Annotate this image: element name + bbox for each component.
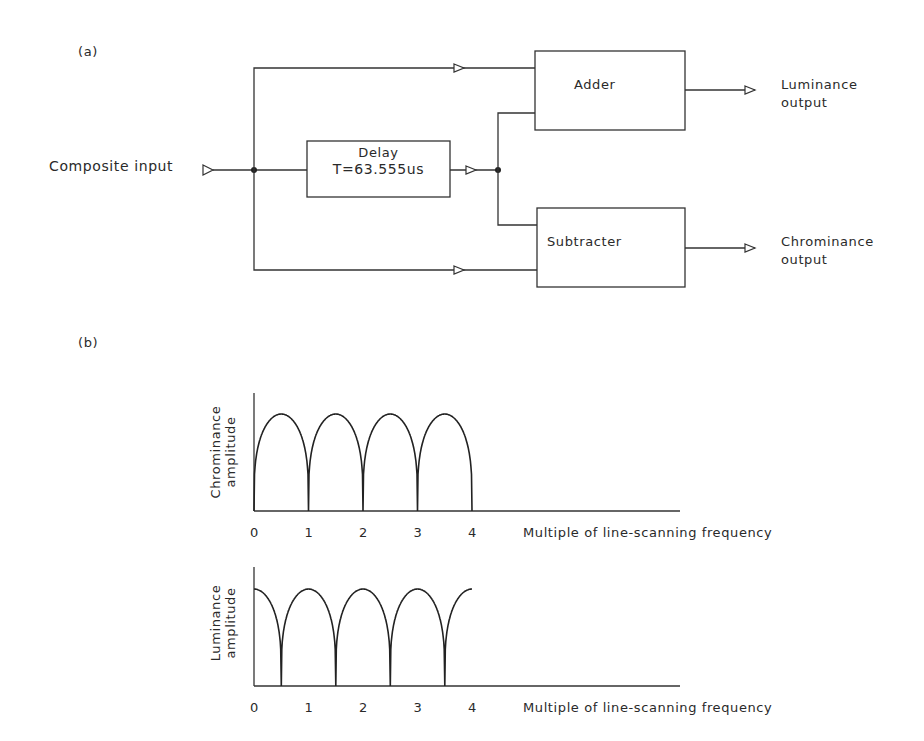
- luminance-chart: [254, 567, 680, 686]
- x-tick-label: 3: [414, 525, 423, 541]
- chrominance-curve: [254, 414, 472, 511]
- x-tick-label: 2: [359, 700, 368, 716]
- x-tick-label: 3: [414, 700, 423, 716]
- delayed-path-to-subtracter: [498, 170, 537, 225]
- subtracter-input-arrow-icon: [454, 266, 464, 274]
- luminance-y-label: Luminance amplitude: [208, 568, 238, 678]
- delay-box-title: Delay: [307, 145, 450, 161]
- luminance-output-label-line1: Luminance: [781, 77, 858, 93]
- x-tick-label: 2: [359, 525, 368, 541]
- adder-label: Adder: [574, 77, 616, 93]
- chrominance-output-arrow-icon: [745, 244, 755, 252]
- part-b-label: (b): [78, 335, 98, 351]
- chrominance-x-label: Multiple of line-scanning frequency: [523, 525, 772, 541]
- subtracter-label: Subtracter: [547, 234, 622, 250]
- luminance-x-label: Multiple of line-scanning frequency: [523, 700, 772, 716]
- adder-input-arrow-icon: [454, 64, 464, 72]
- chrominance-y-label-line2: amplitude: [223, 392, 238, 512]
- part-a-label: (a): [78, 44, 98, 60]
- luminance-y-label-line2: amplitude: [223, 568, 238, 678]
- input-arrow-icon: [203, 165, 213, 175]
- x-tick-label: 1: [305, 700, 314, 716]
- luminance-output-label-line2: output: [781, 95, 827, 111]
- luminance-output-arrow-icon: [745, 86, 755, 94]
- x-tick-label: 0: [250, 700, 259, 716]
- composite-input-label: Composite input: [49, 158, 173, 174]
- delay-output-arrow-icon: [466, 166, 476, 174]
- x-tick-label: 0: [250, 525, 259, 541]
- chrominance-output-label-line1: Chrominance: [781, 234, 874, 250]
- chrominance-chart: [254, 393, 680, 511]
- x-tick-label: 4: [468, 700, 477, 716]
- figure-canvas: [0, 0, 924, 741]
- luminance-curve: [254, 589, 472, 686]
- chrominance-y-label: Chrominance amplitude: [208, 392, 238, 512]
- chrominance-output-label-line2: output: [781, 252, 827, 268]
- luminance-y-label-line1: Luminance: [208, 568, 223, 678]
- delay-box-value: T=63.555us: [307, 161, 450, 177]
- delayed-path-to-adder: [498, 113, 535, 170]
- x-tick-label: 4: [468, 525, 477, 541]
- x-tick-label: 1: [305, 525, 314, 541]
- chrominance-y-label-line1: Chrominance: [208, 392, 223, 512]
